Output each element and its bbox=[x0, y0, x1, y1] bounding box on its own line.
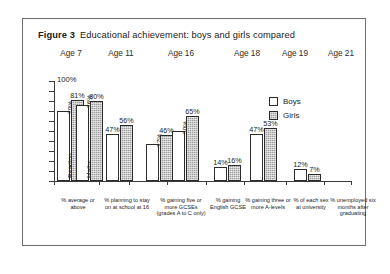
x-axis-tick bbox=[244, 181, 245, 185]
age-band-label-0: Age 7 bbox=[49, 49, 93, 58]
plot-area: 100% 70%Reading81%76%Maths80%47%56%37%46… bbox=[37, 67, 353, 195]
category-caption-0: % average or above bbox=[55, 197, 101, 210]
age-band-header-row: Age 7Age 11Age 16Age 18Age 19Age 21 bbox=[37, 49, 353, 63]
figure-number: Figure 3 bbox=[38, 30, 75, 40]
figure-screenshot: Figure 3Educational achievement: boys an… bbox=[0, 0, 390, 274]
bar-boys-3 bbox=[146, 144, 159, 181]
x-axis-tick bbox=[167, 181, 168, 185]
bar-girls-6 bbox=[264, 128, 277, 181]
bar-series-container: 70%Reading81%76%Maths80%47%56%37%46%50%6… bbox=[54, 81, 351, 181]
legend-label-boys: Boys bbox=[283, 97, 301, 106]
age-band-label-4: Age 19 bbox=[273, 49, 317, 58]
bar-boys-6 bbox=[250, 134, 263, 181]
legend-swatch-boys-icon bbox=[269, 97, 278, 106]
figure-title: Figure 3Educational achievement: boys an… bbox=[38, 30, 295, 40]
legend-label-girls: Girls bbox=[283, 111, 299, 120]
x-axis-tick bbox=[286, 181, 287, 185]
legend-item-girls: Girls bbox=[269, 111, 331, 120]
bar-girls-5 bbox=[228, 165, 241, 181]
category-caption-5: % of each sex at university bbox=[291, 197, 331, 210]
bar-value-label: 16% bbox=[224, 156, 245, 165]
bar-girls-7 bbox=[308, 174, 321, 181]
bar-boys-2 bbox=[106, 134, 119, 181]
bar-girls-1 bbox=[90, 101, 103, 181]
bar-girls-2 bbox=[120, 125, 133, 181]
bar-value-label: 65% bbox=[182, 107, 203, 116]
age-band-label-5: Age 21 bbox=[319, 49, 363, 58]
bar-boys-5 bbox=[214, 167, 227, 181]
figure-title-text: Educational achievement: boys and girls … bbox=[80, 30, 295, 40]
bar-value-label: 80% bbox=[86, 92, 107, 101]
age-band-label-1: Age 11 bbox=[99, 49, 143, 58]
category-caption-6: % unemployed six months after graduating bbox=[329, 197, 377, 217]
legend-item-boys: Boys bbox=[269, 97, 331, 106]
category-caption-row: % average or above% planning to stay on … bbox=[37, 197, 357, 227]
x-axis-tick bbox=[351, 181, 352, 185]
bar-boys-4 bbox=[172, 131, 185, 181]
category-caption-3: % gaining English GCSE bbox=[207, 197, 249, 210]
bar-value-label: 56% bbox=[116, 116, 137, 125]
x-axis-tick bbox=[206, 181, 207, 185]
x-axis-tick bbox=[99, 181, 100, 185]
bar-value-label: 81% bbox=[67, 91, 88, 100]
category-caption-2: % gaining five or more GCSEs (grades A t… bbox=[155, 197, 207, 217]
category-caption-4: % gaining three or more A-levels bbox=[245, 197, 291, 210]
bar-value-label: 7% bbox=[304, 165, 325, 174]
age-band-label-3: Age 18 bbox=[225, 49, 269, 58]
x-axis-tick bbox=[54, 181, 55, 185]
bar-girls-4 bbox=[186, 116, 199, 181]
x-axis-tick bbox=[129, 181, 130, 185]
age-band-label-2: Age 16 bbox=[159, 49, 203, 58]
x-axis-tick bbox=[324, 181, 325, 185]
figure-frame: Figure 3Educational achievement: boys an… bbox=[22, 18, 366, 246]
legend-swatch-girls-icon bbox=[269, 111, 278, 120]
legend: Boys Girls bbox=[269, 97, 331, 125]
category-caption-1: % planning to stay on at school at 16 bbox=[101, 197, 153, 210]
